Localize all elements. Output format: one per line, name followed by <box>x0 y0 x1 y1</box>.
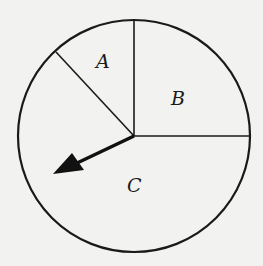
region-label-c: C <box>127 174 142 196</box>
spinner-arrow-shaft <box>75 136 134 164</box>
spinner-diagram: A B C <box>0 0 263 266</box>
region-label-a: A <box>94 50 110 72</box>
divider-diagonal <box>56 52 134 136</box>
region-label-b: B <box>170 87 185 109</box>
spinner-arrow-head <box>53 153 84 174</box>
